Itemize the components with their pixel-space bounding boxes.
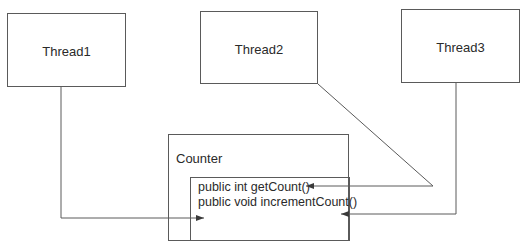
thread1-connector	[61, 87, 204, 218]
thread3-connector	[341, 83, 456, 214]
connection-lines	[0, 0, 528, 244]
thread2-connector	[306, 84, 433, 186]
